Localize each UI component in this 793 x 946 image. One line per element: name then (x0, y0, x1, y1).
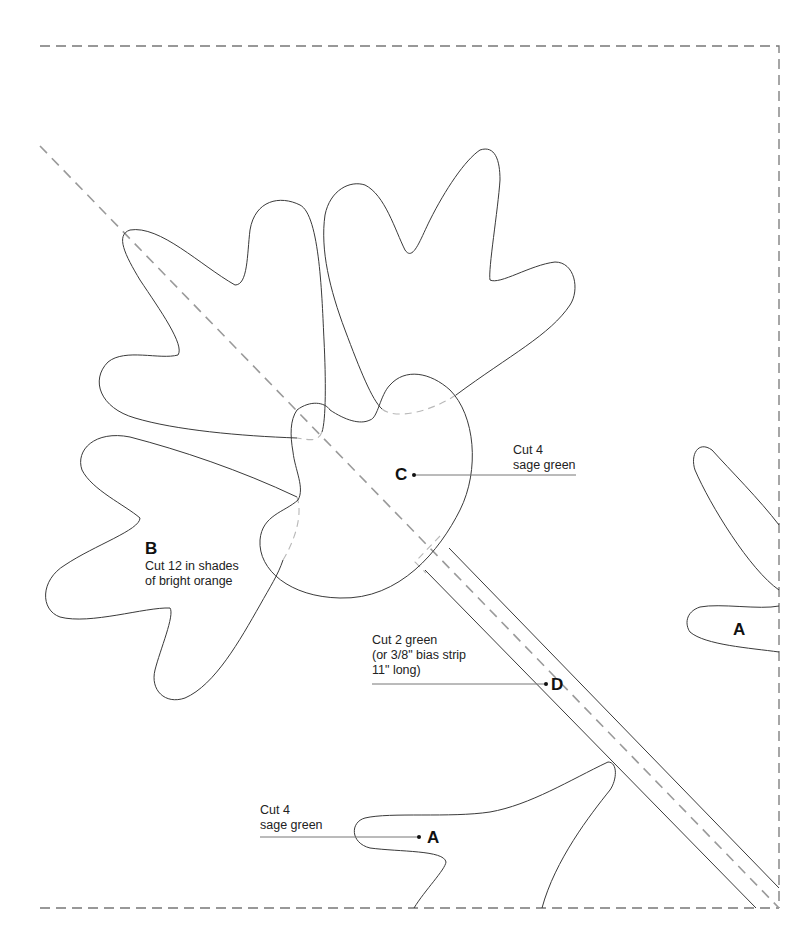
note-d-line2: (or 3/8" bias strip (372, 648, 466, 663)
leaf-a-bottom (354, 762, 615, 908)
note-c-count: Cut 4 (513, 443, 576, 458)
piece-note-c: Cut 4 sage green (513, 443, 576, 473)
center-piece-c (260, 374, 472, 598)
piece-note-b: Cut 12 in shades of bright orange (145, 559, 239, 589)
piece-label-d: D (551, 676, 563, 694)
marker-dot-c (412, 473, 416, 477)
stem-piece-d (415, 536, 779, 908)
marker-dot-d (544, 682, 548, 686)
piece-note-d: Cut 2 green (or 3/8" bias strip 11" long… (372, 633, 466, 678)
note-b-line1: Cut 12 in shades (145, 559, 239, 574)
note-a-count: Cut 4 (260, 803, 323, 818)
note-d-line3: 11" long) (372, 663, 466, 678)
note-a-fabric: sage green (260, 818, 323, 833)
piece-note-a: Cut 4 sage green (260, 803, 323, 833)
piece-label-c: C (395, 466, 407, 484)
petal-b-upper-left (99, 200, 325, 439)
note-b-line2: of bright orange (145, 574, 239, 589)
diagonal-fold-line (40, 146, 779, 908)
piece-label-a-right: A (733, 621, 745, 639)
petal-b-upper-right (324, 149, 575, 414)
piece-label-a: A (427, 829, 439, 847)
note-c-fabric: sage green (513, 458, 576, 473)
template-border (40, 46, 779, 908)
piece-label-b: B (145, 540, 157, 558)
note-d-line1: Cut 2 green (372, 633, 466, 648)
marker-dot-a (417, 835, 421, 839)
